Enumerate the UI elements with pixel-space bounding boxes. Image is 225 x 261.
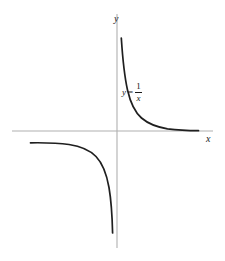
equation-lhs: y [122,88,126,97]
equation-fraction: 1 x [135,82,142,103]
hyperbola-figure: y x y = 1 x [0,0,225,261]
curve-branch-negative [31,143,113,233]
equation-denominator: x [136,94,142,103]
equation-annotation: y = 1 x [122,82,142,103]
equation-equals-sign: = [128,88,133,97]
x-axis-label: x [206,134,210,144]
equation-numerator: 1 [135,82,142,91]
plot-canvas [0,0,225,261]
y-axis-label: y [114,14,118,24]
